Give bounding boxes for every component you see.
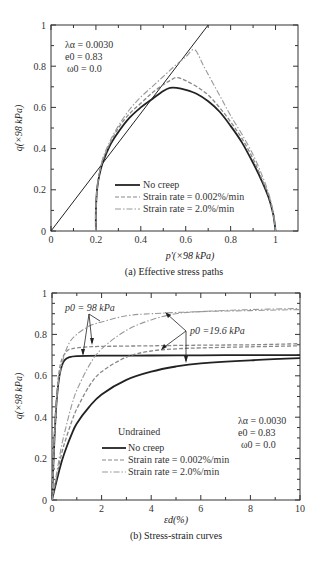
x-axis-title-b: εd(%)	[164, 514, 189, 526]
annotation-p0-98: p0 = 98 kPa	[64, 302, 115, 313]
y-tick-label: 0.8	[35, 329, 48, 340]
legend-a: No creep Strain rate = 0.002%/min Strain…	[115, 179, 244, 214]
y-tick-label: 0.6	[35, 370, 48, 381]
x-tick-label: 0.8	[224, 234, 237, 245]
x-tick-label: 10	[295, 503, 305, 514]
x-axis-title-a: p′(×98 kPa)	[165, 250, 215, 262]
x-tick-label: 0.2	[90, 234, 103, 245]
axis-ticks-b: 024681000.20.40.60.81	[35, 288, 306, 515]
figure: 00.20.40.60.8100.20.40.60.81 λα = 0.0030…	[0, 0, 321, 562]
legend-b-title: Undrained	[118, 426, 160, 437]
y-tick-label: 0.6	[34, 102, 47, 113]
x-tick-label: 1	[273, 234, 278, 245]
x-tick-label: 4	[149, 503, 154, 514]
x-tick-label: 0	[50, 503, 55, 514]
annotation-p0-19-6: p0 =19.6 kPa	[189, 325, 245, 336]
y-tick-label: 0	[42, 495, 47, 506]
x-tick-label: 8	[248, 503, 253, 514]
param-lambda: λα = 0.0030	[65, 39, 113, 50]
caption-b: (b) Stress-strain curves	[130, 530, 222, 542]
y-tick-label: 1	[42, 288, 47, 299]
y-axis-title-a: q(×98 kPa)	[13, 104, 25, 151]
y-tick-label: 0.2	[35, 453, 48, 464]
param-e0: e0 = 0.83	[65, 51, 103, 62]
parameter-block-a: λα = 0.0030 e0 = 0.83 ω0 = 0.0	[65, 39, 113, 74]
y-tick-label: 0.2	[34, 184, 47, 195]
param-omega0-b: ω0 = 0.0	[241, 439, 276, 450]
x-tick-label: 6	[198, 503, 203, 514]
y-tick-label: 0.8	[34, 61, 47, 72]
legend-b-rate-fast: Strain rate = 2.0%/min	[128, 466, 219, 477]
legend-a-rate-fast: Strain rate = 2.0%/min	[143, 203, 234, 214]
chart-effective-stress-paths: 00.20.40.60.8100.20.40.60.81 λα = 0.0030…	[13, 20, 298, 279]
x-tick-label: 2	[99, 503, 104, 514]
y-tick-label: 0.4	[34, 143, 47, 154]
legend-b-no-creep: No creep	[128, 442, 164, 453]
x-tick-label: 0.6	[179, 234, 192, 245]
legend-a-rate-slow: Strain rate = 0.002%/min	[143, 191, 244, 202]
param-omega0: ω0 = 0.0	[67, 63, 102, 74]
x-tick-label: 0.4	[135, 234, 148, 245]
legend-b: Undrained No creep Strain rate = 0.002%/…	[102, 426, 229, 477]
y-tick-label: 1	[41, 20, 46, 31]
chart-stress-strain-curves: 024681000.20.40.60.81 p0 = 98 kPa p0 =19…	[13, 288, 305, 543]
y-tick-label: 0	[41, 226, 46, 237]
y-tick-label: 0.4	[35, 412, 48, 423]
legend-a-no-creep: No creep	[143, 179, 179, 190]
parameter-block-b: λα = 0.0030 e0 = 0.83 ω0 = 0.0	[238, 415, 286, 450]
x-tick-label: 0	[49, 234, 54, 245]
legend-b-rate-slow: Strain rate = 0.002%/min	[128, 454, 229, 465]
param-e0-b: e0 = 0.83	[238, 427, 276, 438]
y-axis-title-b: q(×98 kPa)	[13, 372, 25, 419]
caption-a: (a) Effective stress paths	[125, 266, 223, 278]
param-lambda-b: λα = 0.0030	[238, 415, 286, 426]
